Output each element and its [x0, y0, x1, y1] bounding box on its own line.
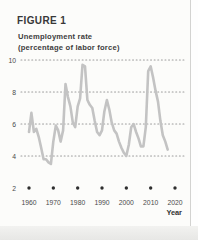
page-bottom-shadow: [0, 226, 198, 240]
x-axis-label-2000: 2000: [119, 199, 134, 206]
x-tick-dot-2010: [149, 186, 152, 189]
y-axis-label-6: 6: [12, 121, 16, 128]
x-axis-label-2020: 2020: [167, 199, 182, 206]
y-axis-label-8: 8: [12, 89, 16, 96]
x-tick-dot-2000: [125, 186, 128, 189]
figure-page: 2468101960197019801990200020102020Year F…: [0, 0, 198, 240]
x-tick-dot-2020: [173, 186, 176, 189]
x-tick-dot-1970: [52, 186, 55, 189]
x-tick-dot-1990: [100, 186, 103, 189]
x-axis-label-2010: 2010: [143, 199, 158, 206]
figure-label: FIGURE 1: [17, 15, 66, 26]
series-line-unemployment-rate: [29, 65, 168, 164]
x-tick-dot-1980: [76, 186, 79, 189]
x-axis-title: Year: [166, 208, 182, 217]
y-axis-label-4: 4: [12, 153, 16, 160]
x-axis-label-1970: 1970: [46, 199, 61, 206]
x-axis-label-1960: 1960: [21, 199, 36, 206]
chart-title: Unemployment rate (percentage of labor f…: [18, 31, 120, 53]
x-axis-label-1980: 1980: [70, 199, 85, 206]
page-right-margin: [191, 0, 198, 226]
chart-title-line1: Unemployment rate: [18, 31, 120, 42]
y-axis-label-10: 10: [8, 57, 16, 64]
x-axis-label-1990: 1990: [94, 199, 109, 206]
x-tick-dot-1960: [27, 186, 30, 189]
y-axis-label-2: 2: [12, 185, 16, 192]
chart-title-line2: (percentage of labor force): [18, 42, 120, 53]
